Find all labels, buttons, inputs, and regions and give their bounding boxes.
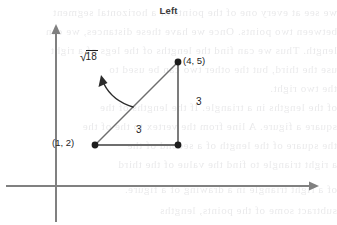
hypotenuse-pointer-arrowhead-icon <box>99 75 108 87</box>
hypotenuse-length-label: √18 <box>80 50 98 64</box>
figure-page: we see at every one of the points of a h… <box>0 0 337 225</box>
x-axis-arrowhead-icon <box>309 182 319 191</box>
point-label-upper-right: (4, 5) <box>183 55 205 66</box>
coordinate-plane-svg <box>0 0 337 225</box>
hypotenuse-pointer-arrow <box>104 84 133 107</box>
radicand-value: 18 <box>86 50 98 62</box>
vertex-dot-upper-right <box>175 59 182 66</box>
leg-length-label-vertical: 3 <box>196 96 202 107</box>
y-axis-arrowhead-icon <box>52 24 61 34</box>
leg-length-label-horizontal: 3 <box>136 124 142 135</box>
vertex-dot-right-angle <box>175 142 182 149</box>
coordinate-figure: Left (4, 5) (1, 2) 3 3 √18 <box>0 0 337 225</box>
point-label-lower-left: (1, 2) <box>52 137 74 148</box>
vertex-dot-lower-left <box>92 142 99 149</box>
